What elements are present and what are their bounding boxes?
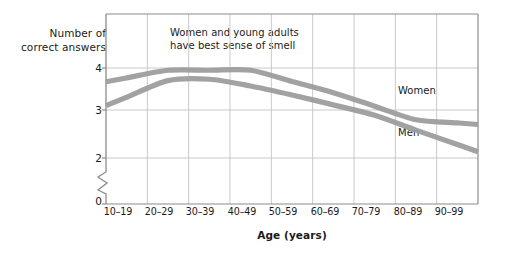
smell-test-line-chart: Number of correct answers 4 3 2 0 10–19 …: [0, 0, 516, 255]
data-series-layer: [106, 70, 478, 152]
y-axis-line-with-break: [98, 14, 107, 204]
data-line-men: [106, 79, 478, 152]
axis-lines: [98, 14, 478, 204]
gridlines: [106, 14, 478, 204]
plot-area: [0, 0, 516, 255]
